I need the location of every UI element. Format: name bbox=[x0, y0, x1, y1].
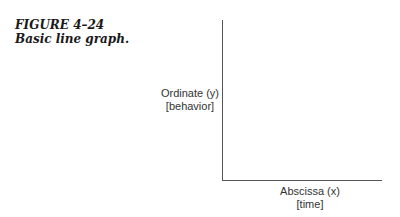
x-axis-label: Abscissa (x) [time] bbox=[270, 185, 350, 211]
y-axis-label-line1: Ordinate (y) bbox=[160, 87, 220, 100]
y-axis-label-line2: [behavior] bbox=[160, 100, 220, 113]
figure-number: FIGURE 4–24 bbox=[15, 18, 129, 32]
x-axis-line bbox=[222, 180, 382, 181]
x-axis-label-line2: [time] bbox=[270, 198, 350, 211]
y-axis-label: Ordinate (y) [behavior] bbox=[160, 87, 220, 113]
figure-caption: FIGURE 4–24 Basic line graph. bbox=[15, 18, 129, 46]
x-axis-label-line1: Abscissa (x) bbox=[270, 185, 350, 198]
y-axis-line bbox=[222, 20, 223, 181]
figure-title: Basic line graph. bbox=[15, 32, 129, 46]
